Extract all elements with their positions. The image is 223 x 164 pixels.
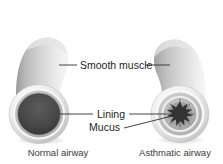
caption-normal-airway: Normal airway: [28, 147, 89, 158]
asthmatic-airway-graphic: [151, 39, 209, 145]
normal-airway-graphic: [9, 37, 69, 145]
caption-asthmatic-airway: Asthmatic airway: [139, 147, 211, 158]
figure-illustration: Smooth muscle Lining Mucus Normal airway…: [0, 0, 223, 164]
airway-comparison-figure: Smooth muscle Lining Mucus Normal airway…: [0, 0, 223, 164]
label-mucus: Mucus: [89, 121, 120, 133]
label-lining: Lining: [97, 108, 125, 120]
label-smooth-muscle: Smooth muscle: [80, 59, 153, 71]
